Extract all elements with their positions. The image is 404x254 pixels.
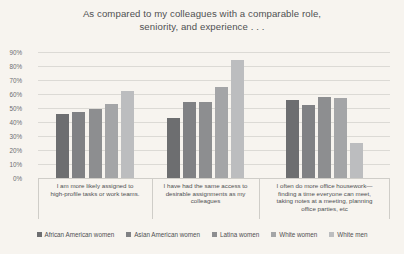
y-axis-tick-label: 10% <box>0 161 22 168</box>
bar <box>231 60 244 178</box>
bar <box>72 112 85 178</box>
bar <box>350 143 363 178</box>
bar <box>334 98 347 178</box>
bar <box>199 102 212 178</box>
bar-group <box>259 52 390 178</box>
category-label: I am more likely assigned tohigh-profile… <box>38 179 152 227</box>
category-separator <box>259 179 260 219</box>
y-axis-tick-label: 60% <box>0 91 22 98</box>
bar-group <box>152 52 259 178</box>
legend-label: Latina women <box>220 231 259 238</box>
category-axis-labels: I am more likely assigned tohigh-profile… <box>38 179 390 227</box>
y-axis-tick-label: 90% <box>0 49 22 56</box>
legend-item[interactable]: African American women <box>37 231 115 238</box>
bar <box>318 97 331 178</box>
legend-item[interactable]: Latina women <box>212 231 259 238</box>
category-label-line: colleagues <box>152 197 259 205</box>
category-separator <box>152 179 153 219</box>
bar <box>105 104 118 178</box>
bar <box>167 118 180 178</box>
bar <box>302 105 315 178</box>
plot-area: 90%80%70%60%50%40%30%20%10%0% <box>38 52 390 178</box>
bar <box>183 102 196 178</box>
y-axis-tick-label: 30% <box>0 133 22 140</box>
legend-label: White men <box>337 231 367 238</box>
y-axis-tick-label: 40% <box>0 119 22 126</box>
legend-swatch-icon <box>126 232 131 237</box>
legend-label: African American women <box>45 231 115 238</box>
bar-group <box>38 52 152 178</box>
bar-chart: As compared to my colleagues with a comp… <box>0 0 404 254</box>
category-label-line: desirable assignments as my <box>152 190 259 198</box>
bar <box>89 109 102 178</box>
category-label-line: high-profile tasks or work teams. <box>38 190 152 198</box>
category-label-line: I often do more office housework— <box>259 182 390 190</box>
bar <box>56 114 69 178</box>
y-axis-tick-label: 50% <box>0 105 22 112</box>
y-axis-tick-label: 20% <box>0 147 22 154</box>
chart-title: As compared to my colleagues with a comp… <box>0 7 404 33</box>
y-axis-tick-label: 80% <box>0 63 22 70</box>
category-separator <box>38 179 39 219</box>
legend-swatch-icon <box>212 232 217 237</box>
bar <box>121 91 134 178</box>
bars-layer <box>38 52 390 178</box>
legend-item[interactable]: Asian American women <box>126 231 200 238</box>
legend-label: White women <box>279 231 317 238</box>
legend-item[interactable]: White women <box>271 231 317 238</box>
category-separator <box>389 179 390 219</box>
y-axis-tick-label: 0% <box>0 175 22 182</box>
category-label-line: I have had the same access to <box>152 182 259 190</box>
bar <box>286 100 299 178</box>
category-label-line: I am more likely assigned to <box>38 182 152 190</box>
category-label: I often do more office housework—finding… <box>259 179 390 227</box>
category-label-line: taking notes at a meeting, planning <box>259 197 390 205</box>
chart-legend: African American womenAsian American wom… <box>0 231 404 238</box>
legend-swatch-icon <box>37 232 42 237</box>
legend-item[interactable]: White men <box>329 231 367 238</box>
legend-swatch-icon <box>271 232 276 237</box>
bar <box>215 87 228 178</box>
legend-label: Asian American women <box>134 231 200 238</box>
category-label-line: office parties, etc <box>259 205 390 213</box>
category-label: I have had the same access todesirable a… <box>152 179 259 227</box>
chart-title-line: As compared to my colleagues with a comp… <box>0 7 404 20</box>
chart-title-line: seniority, and experience . . . <box>0 20 404 33</box>
category-label-line: finding a time everyone can meet, <box>259 190 390 198</box>
y-axis-tick-label: 70% <box>0 77 22 84</box>
legend-swatch-icon <box>329 232 334 237</box>
